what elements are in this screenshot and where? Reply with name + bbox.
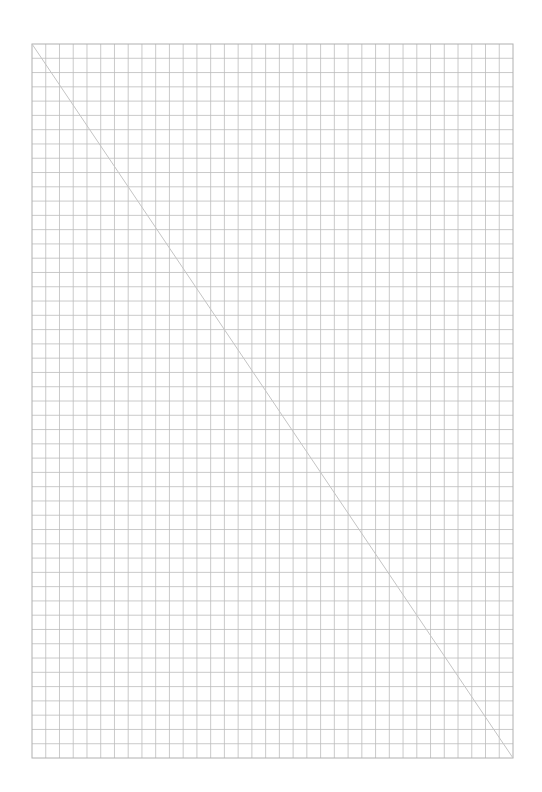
- graph-paper-page: Blank graph paper with a single diagonal…: [0, 0, 542, 792]
- grid: [0, 0, 542, 792]
